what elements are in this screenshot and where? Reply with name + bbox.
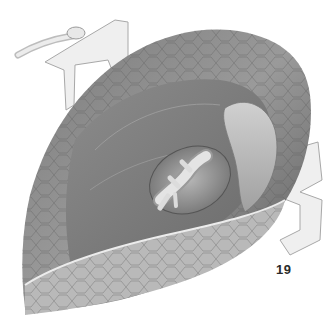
figure-number: 19 — [276, 262, 291, 277]
anatomical-illustration — [0, 0, 329, 335]
